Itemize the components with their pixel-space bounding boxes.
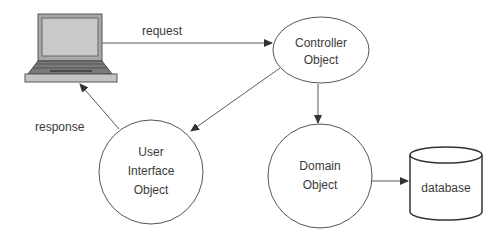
ui-label-line2: Interface [128,164,175,178]
response-edge: response [35,84,119,134]
controller-to-ui-edge [191,68,280,131]
controller-label-line1: Controller [295,36,347,50]
database-node: database [410,147,482,220]
controller-object-node: Controller Object [273,17,369,83]
user-interface-object-node: User Interface Object [99,120,203,224]
controller-label-line2: Object [304,53,339,67]
request-edge: request [102,24,272,43]
domain-label-line2: Object [303,178,338,192]
domain-object-node: Domain Object [268,124,372,228]
response-label: response [35,120,85,134]
ui-label-line3: Object [134,183,169,197]
domain-label-line1: Domain [299,159,340,173]
ui-label-line1: User [138,145,163,159]
database-label: database [421,181,471,195]
request-label: request [142,24,183,38]
laptop-icon [25,14,117,82]
architecture-diagram: request response Controller Object User … [0,0,504,237]
